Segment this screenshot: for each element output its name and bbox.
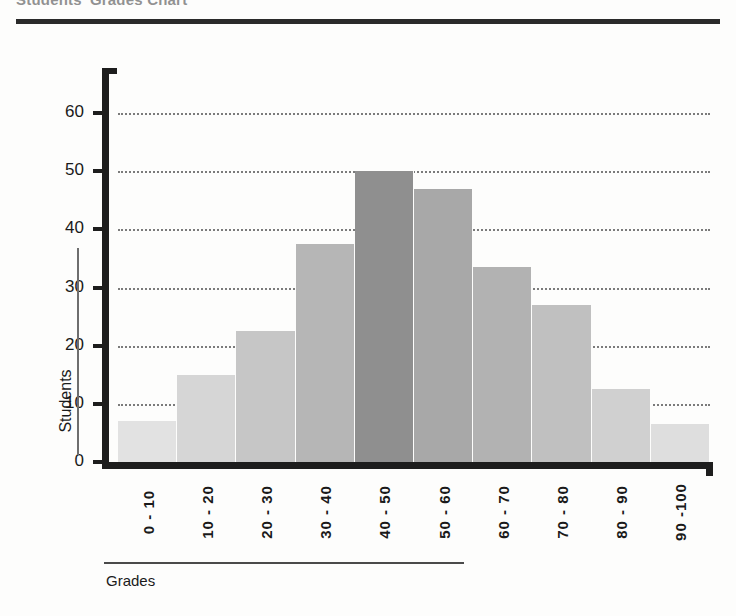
x-label-slot: 50 - 60 (414, 470, 473, 558)
y-axis-title: Students (57, 331, 75, 471)
bar-50-60[interactable] (414, 189, 473, 462)
x-tick-label: 80 - 90 (613, 485, 630, 539)
x-tick-label: 10 - 20 (198, 485, 215, 539)
y-axis-top-cap (102, 68, 117, 74)
x-tick-label: 70 - 80 (554, 485, 571, 539)
y-tick-0 (93, 460, 109, 464)
x-label-slot: 30 - 40 (296, 470, 355, 558)
y-tick-20 (93, 344, 109, 348)
bar-40-50[interactable] (355, 171, 414, 462)
bar-90-100[interactable] (651, 424, 710, 462)
bar-series (118, 70, 710, 462)
bar-slot (592, 70, 651, 462)
bar-20-30[interactable] (236, 331, 295, 462)
y-tick-30 (93, 286, 109, 290)
grades-histogram: 0102030405060 Students 0 - 1010 - 2020 -… (0, 0, 736, 616)
x-tick-label: 0 - 10 (139, 490, 156, 534)
x-tick-label: 40 - 50 (376, 485, 393, 539)
bar-slot (355, 70, 414, 462)
bar-slot (473, 70, 532, 462)
y-tick-label-60: 60 (40, 102, 84, 122)
bar-80-90[interactable] (592, 389, 651, 462)
x-axis-tick-labels: 0 - 1010 - 2020 - 3030 - 4040 - 5050 - 6… (118, 470, 710, 558)
x-label-slot: 0 - 10 (118, 470, 177, 558)
bar-30-40[interactable] (296, 244, 355, 462)
bar-slot (296, 70, 355, 462)
x-axis-title: Grades (106, 572, 155, 589)
bar-0-10[interactable] (118, 421, 177, 462)
y-tick-label-50: 50 (40, 160, 84, 180)
x-label-slot: 40 - 50 (355, 470, 414, 558)
x-tick-label: 30 - 40 (317, 485, 334, 539)
x-axis-line (102, 462, 713, 469)
chart-page: Students' Grades Chart 0102030405060 Stu… (0, 0, 736, 616)
y-tick-50 (93, 169, 109, 173)
x-tick-label: 90 -100 (672, 483, 689, 541)
x-label-slot: 70 - 80 (532, 470, 591, 558)
bar-70-80[interactable] (532, 305, 591, 462)
bar-60-70[interactable] (473, 267, 532, 462)
y-tick-label-40: 40 (40, 218, 84, 238)
bar-slot (236, 70, 295, 462)
bar-slot (118, 70, 177, 462)
x-label-slot: 10 - 20 (177, 470, 236, 558)
x-tick-label: 50 - 60 (435, 485, 452, 539)
bar-slot (532, 70, 591, 462)
y-tick-40 (93, 227, 109, 231)
y-tick-60 (93, 111, 109, 115)
bar-slot (651, 70, 710, 462)
bar-10-20[interactable] (177, 375, 236, 462)
x-axis-title-rule (104, 562, 464, 564)
x-tick-label: 60 - 70 (494, 485, 511, 539)
x-label-slot: 20 - 30 (236, 470, 295, 558)
x-label-slot: 90 -100 (651, 470, 710, 558)
bar-slot (177, 70, 236, 462)
x-tick-label: 20 - 30 (258, 485, 275, 539)
x-label-slot: 60 - 70 (473, 470, 532, 558)
bar-slot (414, 70, 473, 462)
x-label-slot: 80 - 90 (592, 470, 651, 558)
y-axis-title-rule (77, 248, 79, 455)
y-tick-10 (93, 402, 109, 406)
